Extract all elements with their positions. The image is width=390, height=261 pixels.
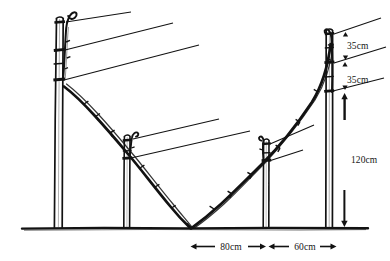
tie-band-2 — [54, 49, 65, 50]
trellis-diagram: 35cm 35cm 120cm 80cm 60cm — [0, 0, 390, 261]
dimension-label-second-35cm: 35cm — [347, 75, 369, 85]
dimension-label-span-60cm: 60cm — [294, 242, 316, 252]
diagram-canvas: 35cm 35cm 120cm 80cm 60cm — [0, 0, 390, 261]
dimension-label-post-height-120cm: 120cm — [351, 155, 378, 165]
dimension-label-top-35cm: 35cm — [347, 41, 369, 51]
dimension-label-span-80cm: 80cm — [220, 242, 242, 252]
tie-band-1 — [54, 22, 65, 23]
tie-band-4 — [54, 63, 65, 64]
